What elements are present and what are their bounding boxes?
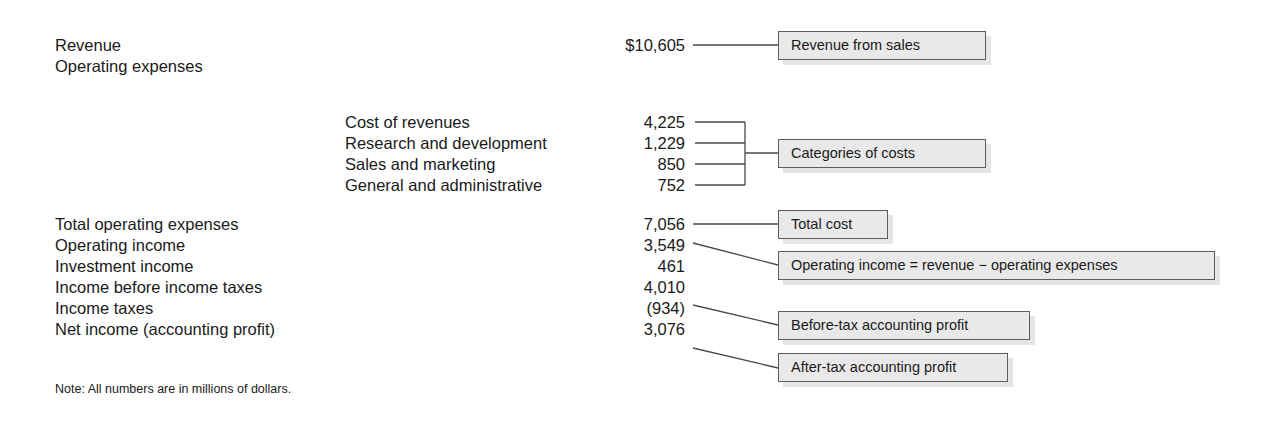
- row-amount-revenue: $10,605: [485, 35, 685, 56]
- row-amount-net-income: 3,076: [485, 319, 685, 340]
- row-label-income-before-income-taxes: Income before income taxes: [55, 277, 262, 298]
- row-label-net-income: Net income (accounting profit): [55, 319, 275, 340]
- callout-before-tax-profit: Before-tax accounting profit: [778, 311, 1030, 340]
- callout-operating-income: Operating income = revenue − operating e…: [778, 251, 1215, 280]
- callout-revenue-from-sales: Revenue from sales: [778, 31, 986, 60]
- row-label-investment-income: Investment income: [55, 256, 193, 277]
- row-label-sales-and-marketing: Sales and marketing: [345, 154, 495, 175]
- row-amount-sales-and-marketing: 850: [485, 154, 685, 175]
- footnote-note: Note: All numbers are in millions of dol…: [55, 381, 291, 397]
- row-label-operating-expenses: Operating expenses: [55, 56, 203, 77]
- row-label-total-operating-expenses: Total operating expenses: [55, 214, 238, 235]
- leader-after-tax: [693, 348, 778, 368]
- callout-categories-of-costs: Categories of costs: [778, 139, 986, 168]
- row-amount-total-operating-expenses: 7,056: [485, 214, 685, 235]
- leader-before-tax: [693, 305, 778, 325]
- row-amount-operating-income: 3,549: [485, 235, 685, 256]
- callout-total-cost: Total cost: [778, 210, 888, 239]
- row-label-revenue: Revenue: [55, 35, 121, 56]
- row-label-income-taxes: Income taxes: [55, 298, 153, 319]
- callout-after-tax-profit: After-tax accounting profit: [778, 353, 1008, 382]
- row-amount-income-taxes: (934): [485, 298, 685, 319]
- row-amount-investment-income: 461: [485, 256, 685, 277]
- row-amount-research-and-development: 1,229: [485, 133, 685, 154]
- row-amount-general-and-administrative: 752: [485, 175, 685, 196]
- row-label-cost-of-revenues: Cost of revenues: [345, 112, 470, 133]
- row-amount-cost-of-revenues: 4,225: [485, 112, 685, 133]
- figure-canvas: Revenue $10,605 Operating expenses Cost …: [0, 0, 1270, 427]
- row-label-operating-income: Operating income: [55, 235, 185, 256]
- leader-operating-income: [693, 243, 778, 265]
- row-amount-income-before-income-taxes: 4,010: [485, 277, 685, 298]
